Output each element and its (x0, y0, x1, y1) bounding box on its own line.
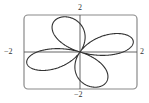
x-min-tick-label: −2 (4, 48, 13, 56)
y-min-tick-label: −2 (74, 91, 83, 99)
x-max-tick-label: 2 (140, 48, 144, 56)
rose-curve-plot (0, 0, 149, 103)
y-max-tick-label: 2 (78, 4, 82, 12)
